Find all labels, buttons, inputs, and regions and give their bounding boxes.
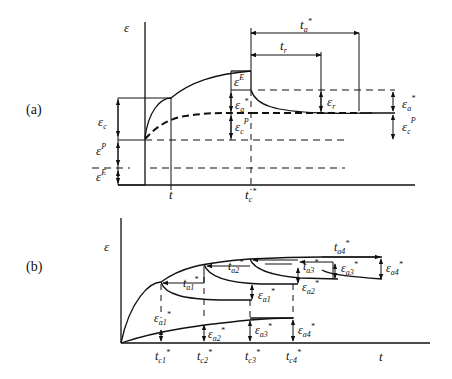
label-tc1: tc1*	[155, 348, 170, 365]
label-eps-e-top: εE	[234, 73, 244, 89]
label-eps-cp-left: εcP	[235, 117, 249, 136]
label-eps-a3-upper: εa3*	[341, 260, 358, 277]
label-tr: tr	[280, 38, 288, 55]
label-ta1: ta1*	[183, 275, 198, 292]
y-axis-label: ε	[104, 239, 110, 254]
x-tick-t: t	[169, 187, 173, 202]
y-axis-label: ε	[124, 20, 130, 35]
label-tc2: tc2*	[197, 348, 212, 365]
panel-b-tag: (b)	[26, 259, 43, 275]
label-eps-a1-upper: εa1*	[258, 287, 275, 304]
label-eps-a4-lower: εa4*	[298, 322, 315, 339]
label-tc3: tc3*	[245, 348, 260, 365]
label-eps-a-right: εa*	[402, 94, 415, 113]
label-eps-a2-lower: εa2*	[208, 326, 225, 343]
label-eps-p: εP	[96, 142, 106, 158]
label-eps-a2-upper: εa2*	[302, 279, 319, 296]
label-ta4: ta4*	[334, 239, 349, 256]
label-eps-r: εr	[327, 94, 336, 111]
label-tc4: tc4*	[286, 348, 301, 365]
label-eps-a3-lower: εa3*	[255, 322, 272, 339]
label-ta-star: ta*	[300, 17, 312, 34]
panel-a-tag: (a)	[26, 102, 42, 118]
label-eps-a-left: εa*	[235, 97, 248, 114]
recovery-curve	[251, 90, 372, 113]
label-eps-a4-upper: εa4*	[386, 260, 403, 277]
panel-b: (b) ε t	[26, 218, 430, 365]
label-eps-c: εc	[98, 114, 107, 131]
recovery-branch-1	[161, 282, 252, 300]
label-eps-a1-lower: εa1*	[154, 310, 171, 327]
x-axis-label: t	[379, 349, 383, 364]
recovery-branch-2	[204, 264, 298, 284]
label-ta3: ta3*	[303, 258, 318, 275]
creep-strain-diagram: (a) ε εc εP εE t εE εa*	[0, 0, 452, 379]
label-eps-cp-right: εcP	[402, 116, 416, 136]
panel-a: (a) ε εc εP εE t εE εa*	[26, 17, 416, 204]
label-eps-e: εE	[96, 168, 106, 184]
